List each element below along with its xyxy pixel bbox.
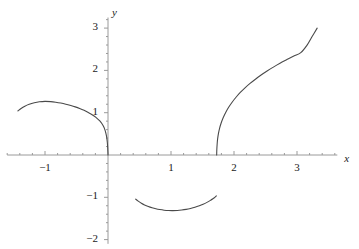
plot-figure: x y −1123321−1−2	[0, 0, 359, 249]
y-tick-label: 1	[93, 105, 99, 117]
x-tick-label: 1	[168, 161, 174, 173]
y-tick-label: 2	[93, 62, 99, 74]
curve-group	[18, 28, 317, 211]
axis-group	[7, 18, 337, 244]
y-axis-label: y	[112, 6, 117, 18]
x-axis-label: x	[344, 152, 349, 164]
y-tick-label: −1	[86, 189, 98, 201]
y-tick-label: −2	[86, 232, 98, 244]
plot-canvas	[0, 0, 359, 249]
x-tick-label: 2	[231, 161, 237, 173]
curve-lower-arc	[136, 196, 217, 211]
curve-right-branch	[217, 28, 317, 155]
x-axis-ticks	[7, 151, 335, 155]
y-tick-label: 3	[93, 20, 99, 32]
x-tick-label: −1	[39, 161, 51, 173]
x-tick-label: 3	[294, 161, 300, 173]
